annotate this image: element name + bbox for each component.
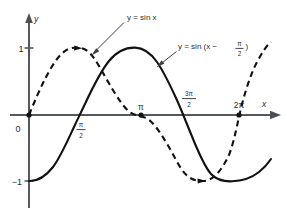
shifted-label-denominator: 2 [238,50,242,57]
x-axis-label: x [261,99,267,109]
x-tick-label-pi-over-2: π 2 [77,121,86,139]
sine-graph-canvas: y x 0 1 −1 π 2 π 3π 2 2π [0,0,287,211]
x-tick-label-pi: π [138,102,144,112]
three-pi-over-2-denominator: 2 [187,101,191,108]
shifted-label-numerator: π [237,40,242,47]
pi-over-2-numerator: π [79,121,84,128]
shifted-label-suffix: ) [246,42,249,51]
y-axis-arrowhead [25,13,33,23]
sine-curve-dashed [29,42,271,181]
sine-label-text: y = sin x [127,13,157,22]
point-2pi [236,112,241,117]
point-origin [26,112,31,117]
sine-curve-group [29,42,271,184]
sine-max-arrow-marker [74,46,83,51]
sine-label-leader-arrowhead [92,48,100,55]
y-axis-label: y [33,14,39,24]
shifted-label-prefix: y = sin (x − [178,42,217,51]
three-pi-over-2-numerator: 3π [185,90,194,97]
axis-labels-group: y x 0 1 −1 [12,14,267,187]
sine-min-arrow-marker [198,179,207,184]
annotation-shifted-sine: y = sin (x − π 2 ) [157,40,249,67]
y-tick-label-1: 1 [18,44,23,54]
x-axis-arrowhead [270,111,281,119]
point-pi [138,112,143,117]
sine-graph-figure: y x 0 1 −1 π 2 π 3π 2 2π [0,0,287,211]
shifted-label-fraction: π 2 [236,40,244,57]
x-tick-label-3pi-over-2: 3π 2 [182,90,196,108]
sine-label-leader-line [95,23,125,53]
y-tick-label-minus-1: −1 [12,177,22,187]
pi-over-2-denominator: 2 [79,132,83,139]
origin-label: 0 [15,124,20,134]
